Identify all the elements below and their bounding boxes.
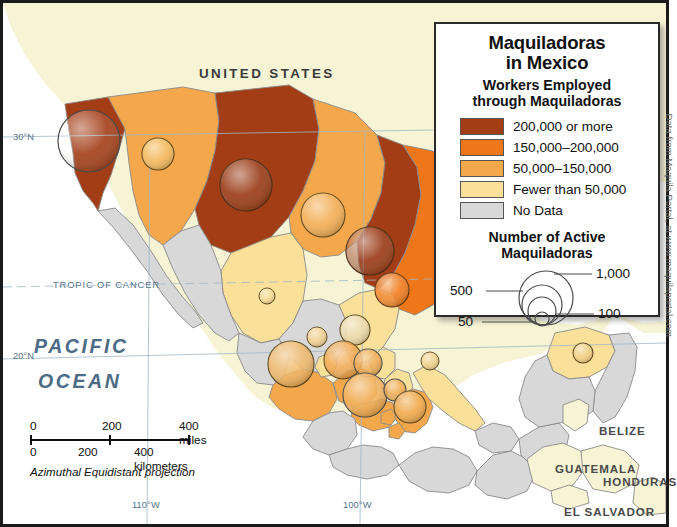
legend-swatch-150000-200000 xyxy=(460,139,504,156)
legend-item-no-data: No Data xyxy=(460,200,648,221)
legend-label-200000-or-more: 200,000 or more xyxy=(513,119,613,134)
legend-label-no-data: No Data xyxy=(513,203,563,218)
scale-bar-line xyxy=(30,435,190,444)
symbol-veracruz xyxy=(421,352,439,370)
size-key-label-50: 50 xyxy=(458,314,473,329)
symbol-coahuila xyxy=(301,193,345,237)
map-legend: Maquiladoras in Mexico Workers Employed … xyxy=(434,22,660,317)
legend-label-50000-150000: 50,000–150,000 xyxy=(513,161,611,176)
size-key-label-1000: 1,000 xyxy=(596,266,630,281)
symbol-durango xyxy=(259,288,275,304)
legend-title-line2: in Mexico xyxy=(446,53,648,73)
legend-swatch-50000-150000 xyxy=(460,160,504,177)
legend-label-150000-200000: 150,000–200,000 xyxy=(513,140,619,155)
scale-bar-miles-labels: 0 200 400 miles xyxy=(30,419,210,434)
legend-subtitle: Workers Employed through Maquiladoras xyxy=(446,78,648,110)
symbol-estado-de-mexico xyxy=(343,373,387,417)
symbol-baja-california xyxy=(58,110,120,172)
legend-label-fewer-than-50000: Fewer than 50,000 xyxy=(513,182,626,197)
legend-title: Maquiladoras in Mexico xyxy=(446,33,648,73)
scale-miles-start: 0 xyxy=(30,419,37,433)
legend-class-list: 200,000 or more 150,000–200,000 50,000–1… xyxy=(446,116,648,221)
symbol-sonora xyxy=(142,138,174,170)
legend-item-fewer-than-50000: Fewer than 50,000 xyxy=(460,179,648,200)
attribution-text: Data from Maquila Portal, at www.maquila… xyxy=(664,114,675,337)
legend-size-key-title-line1: Number of Active xyxy=(446,230,648,246)
size-circle-500 xyxy=(522,285,562,325)
legend-title-line1: Maquiladoras xyxy=(446,33,648,53)
symbol-tamaulipas xyxy=(375,273,409,307)
legend-size-key-title-line2: Maquiladoras xyxy=(446,246,648,262)
scale-tick-end xyxy=(188,435,190,445)
scale-km-end: 400 kilometers xyxy=(134,445,210,473)
symbol-nuevo-leon xyxy=(346,227,394,275)
legend-subtitle-line1: Workers Employed xyxy=(446,78,648,94)
symbol-jalisco xyxy=(268,341,314,387)
legend-swatch-200000-or-more xyxy=(460,118,504,135)
size-key-label-100: 100 xyxy=(598,306,621,321)
scale-km-start: 0 xyxy=(30,445,37,459)
size-circle-100 xyxy=(528,297,556,325)
legend-subtitle-line2: through Maquiladoras xyxy=(446,94,648,110)
legend-swatch-fewer-than-50000 xyxy=(460,181,504,198)
legend-size-key: 1,000 500 100 50 xyxy=(446,264,648,330)
size-key-label-500: 500 xyxy=(450,283,473,298)
symbol-san-luis-potosi xyxy=(340,315,370,345)
legend-item-150000-200000: 150,000–200,000 xyxy=(460,137,648,158)
scale-bar-km-labels: 0 200 400 kilometers xyxy=(30,445,210,460)
symbol-aguascalientes xyxy=(307,327,327,347)
scale-bar: 0 200 400 miles 0 200 400 kilometers Azi… xyxy=(30,419,210,478)
scale-tick-mid xyxy=(109,435,111,445)
scale-miles-mid: 200 xyxy=(102,419,122,433)
legend-item-50000-150000: 50,000–150,000 xyxy=(460,158,648,179)
scale-km-mid: 200 xyxy=(78,445,98,459)
size-circle-50 xyxy=(535,312,549,326)
symbol-yucatan xyxy=(573,343,593,363)
legend-size-key-title: Number of Active Maquiladoras xyxy=(446,230,648,262)
symbol-chihuahua xyxy=(220,159,272,211)
scale-tick-0 xyxy=(30,435,32,445)
legend-swatch-no-data xyxy=(460,202,504,219)
legend-item-200000-or-more: 200,000 or more xyxy=(460,116,648,137)
symbol-puebla xyxy=(394,391,426,423)
